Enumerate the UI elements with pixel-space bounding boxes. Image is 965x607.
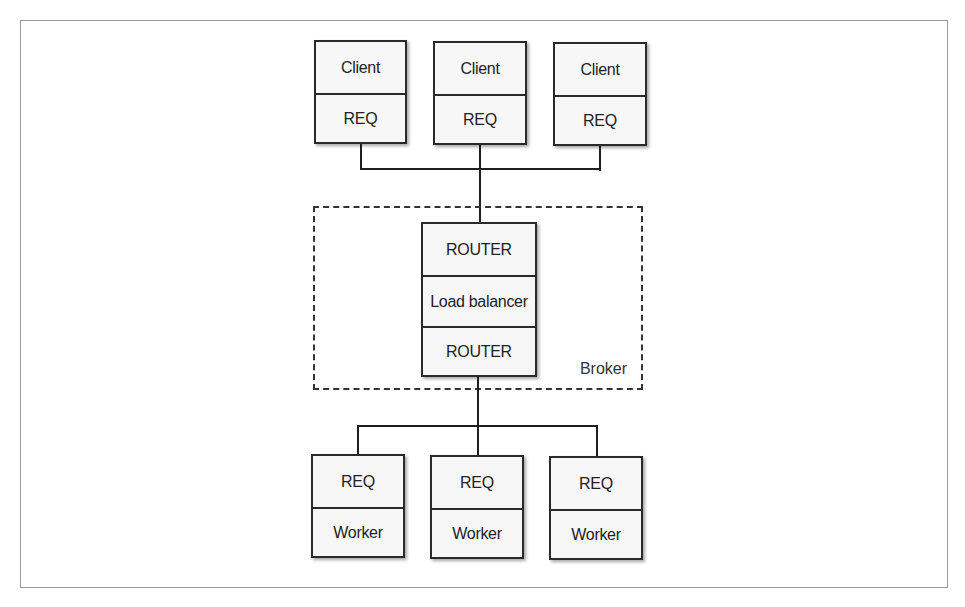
req-socket-label: REQ: [555, 95, 645, 144]
client-node-3: Client REQ: [553, 42, 647, 146]
connector-client1-down: [360, 144, 362, 170]
frontend-router-label: ROUTER: [423, 224, 535, 275]
req-socket-label: REQ: [435, 94, 525, 143]
req-socket-label: REQ: [316, 93, 405, 142]
backend-router-label: ROUTER: [423, 326, 535, 375]
load-balancer-label: Load balancer: [423, 275, 535, 326]
client-label: Client: [316, 42, 405, 93]
req-socket-label: REQ: [432, 457, 522, 508]
worker-label: Worker: [551, 509, 641, 558]
req-socket-label: REQ: [551, 458, 641, 509]
client-label: Client: [435, 43, 525, 94]
worker-label: Worker: [313, 507, 403, 556]
connector-router-to-workers: [477, 377, 479, 456]
connector-worker3-up: [596, 425, 598, 457]
worker-label: Worker: [432, 508, 522, 557]
client-node-2: Client REQ: [433, 41, 527, 145]
broker-stack: ROUTER Load balancer ROUTER: [421, 222, 537, 377]
worker-bus: [357, 425, 598, 427]
client-node-1: Client REQ: [314, 40, 407, 144]
connector-worker1-up: [357, 425, 359, 455]
worker-node-2: REQ Worker: [430, 455, 524, 559]
req-socket-label: REQ: [313, 456, 403, 507]
broker-label: Broker: [580, 360, 627, 378]
worker-node-1: REQ Worker: [311, 454, 405, 558]
client-label: Client: [555, 44, 645, 95]
worker-node-3: REQ Worker: [549, 456, 643, 560]
